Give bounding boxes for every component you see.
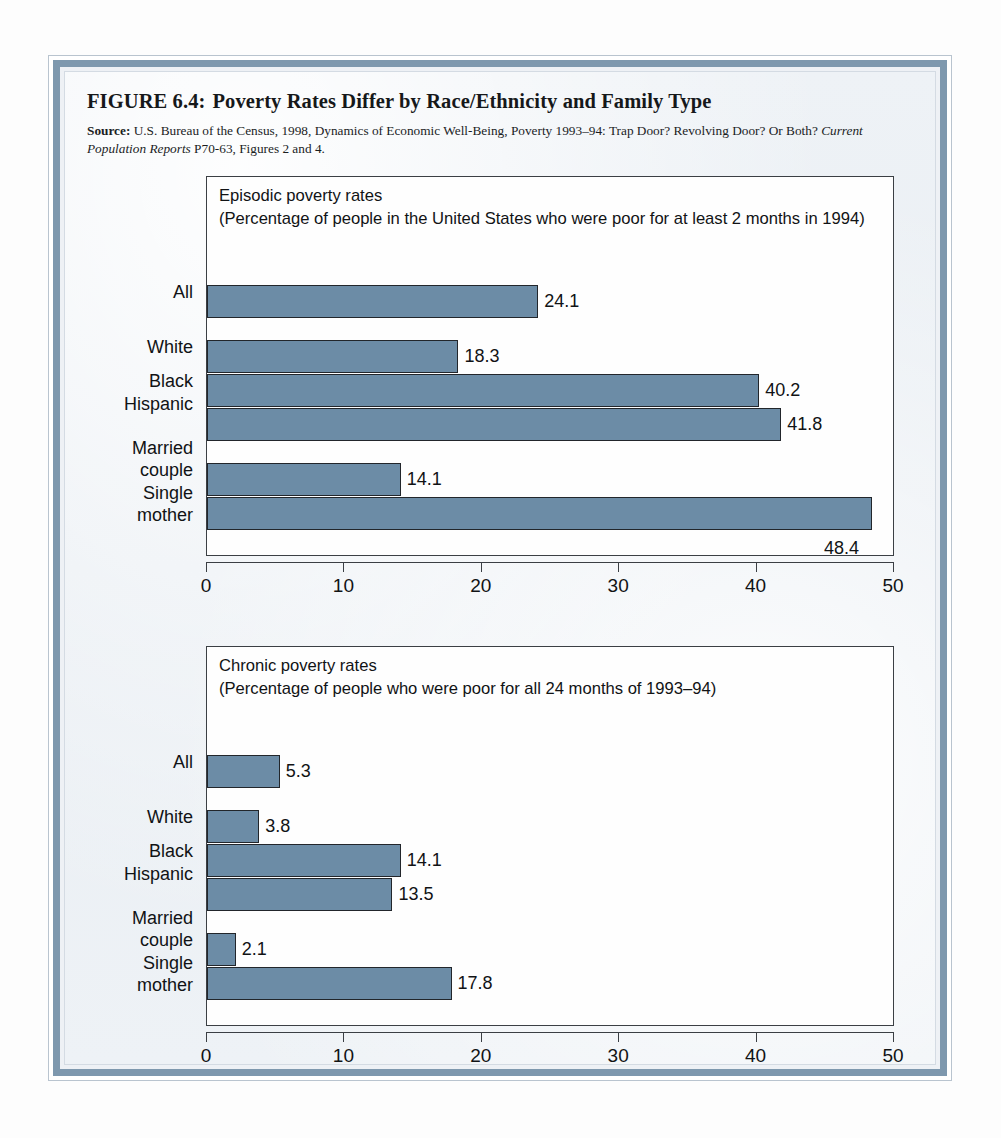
bar-value-label: 13.5 <box>398 884 433 905</box>
x-axis-tick <box>481 1032 482 1042</box>
plot-area: Episodic poverty rates(Percentage of peo… <box>206 176 894 556</box>
x-axis-tick-label: 40 <box>745 1045 766 1065</box>
x-axis-tick <box>206 1032 207 1042</box>
bar-value-label: 41.8 <box>787 414 822 435</box>
category-label-hispanic: Hispanic <box>73 864 193 886</box>
x-axis-tick <box>893 1032 894 1042</box>
x-axis-tick <box>206 562 207 572</box>
bar-value-label: 2.1 <box>242 939 267 960</box>
x-axis-tick-label: 50 <box>882 1045 903 1065</box>
x-axis-tick <box>343 562 344 572</box>
x-axis-tick-label: 0 <box>201 1045 212 1065</box>
bar-value-label: 48.4 <box>824 538 859 559</box>
x-axis-tick <box>343 1032 344 1042</box>
bar-single-mother <box>207 497 872 530</box>
source-text-part1: U.S. Bureau of the Census, 1998, Dynamic… <box>134 123 821 138</box>
chart-caption: Episodic poverty rates(Percentage of peo… <box>219 185 879 230</box>
bar-hispanic <box>207 408 781 441</box>
chart-title: Chronic poverty rates <box>219 655 879 678</box>
category-label-hispanic: Hispanic <box>73 394 193 416</box>
category-label-black: Black <box>73 841 193 863</box>
bar-value-label: 14.1 <box>407 850 442 871</box>
x-axis-tick <box>893 562 894 572</box>
x-axis-tick-label: 30 <box>608 1045 629 1065</box>
page-title: Poverty Rates Differ by Race/Ethnicity a… <box>212 90 711 112</box>
figure-number: FIGURE 6.4: <box>87 90 205 112</box>
chart-subtitle: (Percentage of people in the United Stat… <box>219 208 879 231</box>
x-axis-tick <box>756 562 757 572</box>
x-axis-tick-label: 20 <box>470 575 491 597</box>
bar-value-label: 14.1 <box>407 469 442 490</box>
chart-panel-episodic-poverty: Episodic poverty rates(Percentage of peo… <box>206 176 894 604</box>
plot-area: Chronic poverty rates(Percentage of peop… <box>206 646 894 1026</box>
x-axis-line <box>206 562 894 563</box>
bar-value-label: 17.8 <box>458 973 493 994</box>
source-label: Source: <box>87 123 130 138</box>
category-label-black: Black <box>73 371 193 393</box>
bar-married-couple <box>207 463 401 496</box>
category-label-all: All <box>73 282 193 304</box>
bar-black <box>207 844 401 877</box>
chart-panel-chronic-poverty: Chronic poverty rates(Percentage of peop… <box>206 646 894 1065</box>
bar-value-label: 5.3 <box>286 761 311 782</box>
bar-all <box>207 755 280 788</box>
figure-page: FIGURE 6.4:Poverty Rates Differ by Race/… <box>0 0 1001 1138</box>
category-label-single-mother: Single mother <box>73 953 193 996</box>
bar-hispanic <box>207 878 392 911</box>
source-text-part2: P70-63, Figures 2 and 4. <box>191 141 325 156</box>
category-label-married-couple: Married couple <box>73 438 193 481</box>
bar-single-mother <box>207 967 452 1000</box>
chart-subtitle: (Percentage of people who were poor for … <box>219 678 879 701</box>
bar-value-label: 3.8 <box>265 816 290 837</box>
category-label-white: White <box>73 337 193 359</box>
x-axis-tick <box>756 1032 757 1042</box>
category-label-all: All <box>73 752 193 774</box>
bar-married-couple <box>207 933 236 966</box>
category-label-married-couple: Married couple <box>73 908 193 951</box>
x-axis-tick <box>618 562 619 572</box>
bar-white <box>207 810 259 843</box>
x-axis-tick <box>481 562 482 572</box>
x-axis-tick-label: 30 <box>608 575 629 597</box>
figure-heading: FIGURE 6.4:Poverty Rates Differ by Race/… <box>87 90 917 113</box>
figure-card: FIGURE 6.4:Poverty Rates Differ by Race/… <box>64 71 936 1065</box>
chart-caption: Chronic poverty rates(Percentage of peop… <box>219 655 879 700</box>
bar-black <box>207 374 759 407</box>
x-axis-tick-label: 50 <box>882 575 903 597</box>
x-axis-tick-label: 10 <box>333 575 354 597</box>
bar-white <box>207 340 458 373</box>
x-axis-tick-label: 40 <box>745 575 766 597</box>
chart-title: Episodic poverty rates <box>219 185 879 208</box>
bar-value-label: 18.3 <box>464 346 499 367</box>
x-axis-tick-label: 20 <box>470 1045 491 1065</box>
x-axis-tick-label: 0 <box>201 575 212 597</box>
bar-value-label: 24.1 <box>544 291 579 312</box>
figure-source: Source: U.S. Bureau of the Census, 1998,… <box>87 122 919 158</box>
x-axis-tick-label: 10 <box>333 1045 354 1065</box>
category-label-white: White <box>73 807 193 829</box>
x-axis-tick <box>618 1032 619 1042</box>
category-label-single-mother: Single mother <box>73 483 193 526</box>
bar-value-label: 40.2 <box>765 380 800 401</box>
bar-all <box>207 285 538 318</box>
x-axis-line <box>206 1032 894 1033</box>
